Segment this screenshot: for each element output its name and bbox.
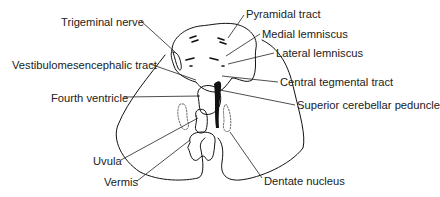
label-trigeminal-nerve: Trigeminal nerve xyxy=(61,16,144,29)
label-vermis: Vermis xyxy=(104,176,138,189)
cerebellum-left-hemisphere xyxy=(116,55,205,180)
label-vestibulomesencephalic-tract: Vestibulomesencephalic tract xyxy=(12,59,157,72)
dentate-nucleus-right xyxy=(223,104,230,132)
vermis-shape xyxy=(188,132,215,160)
lemniscus-marks xyxy=(186,58,224,66)
label-central-tegmental-tract: Central tegmental tract xyxy=(280,76,393,89)
label-superior-cerebellar-peduncle: Superior cerebellar peduncle xyxy=(297,99,440,112)
label-pyramidal-tract: Pyramidal tract xyxy=(246,8,321,21)
pyramidal-tract-marks xyxy=(190,36,226,44)
pons-outline xyxy=(171,23,256,92)
label-dentate-nucleus: Dentate nucleus xyxy=(264,175,345,188)
cerebellum-right-hemisphere xyxy=(218,40,304,180)
label-fourth-ventricle: Fourth ventricle xyxy=(51,92,128,105)
label-medial-lemniscus: Medial lemniscus xyxy=(262,28,348,41)
label-lateral-lemniscus: Lateral lemniscus xyxy=(276,47,363,60)
label-uvula: Uvula xyxy=(93,155,122,168)
